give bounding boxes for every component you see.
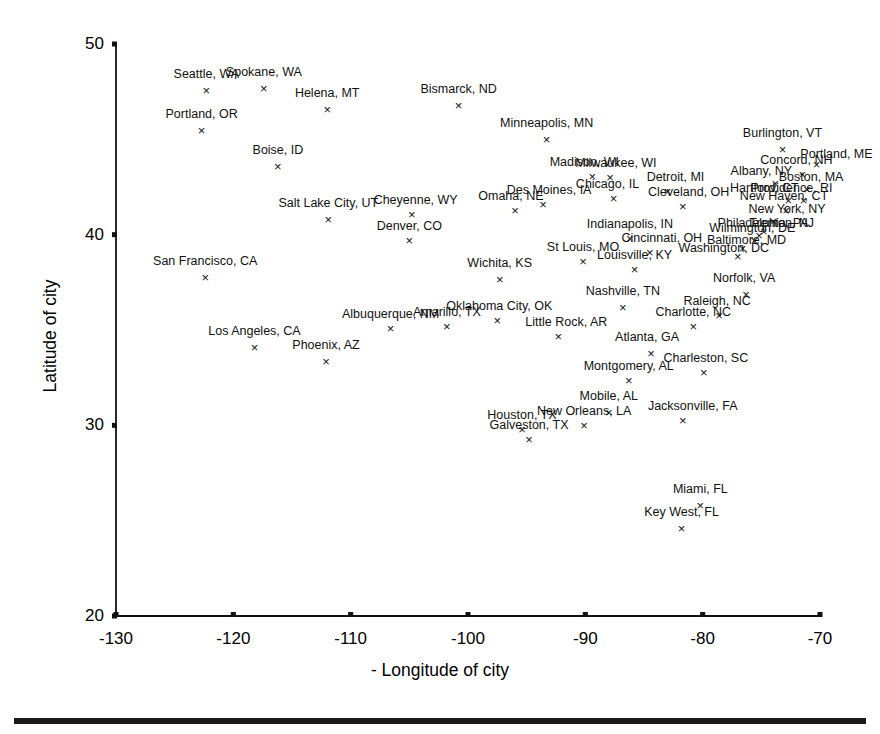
point-marker: ×	[689, 320, 697, 333]
point-label: Denver, CO	[377, 220, 442, 233]
point-marker: ×	[579, 255, 587, 268]
point-label: Burlington, VT	[743, 127, 822, 140]
point-marker: ×	[443, 320, 451, 333]
point-marker: ×	[260, 81, 268, 94]
point-label: Cleveland, OH	[648, 186, 729, 199]
point-label: Albuquerque, NM	[342, 308, 439, 321]
x-tick-label: -80	[663, 630, 743, 647]
point-marker: ×	[525, 432, 533, 445]
point-marker: ×	[679, 413, 687, 426]
point-marker: ×	[323, 102, 331, 115]
point-label: Boise, ID	[253, 144, 304, 157]
x-tick-label: -130	[76, 630, 156, 647]
point-label: Providence, RI	[751, 182, 833, 195]
point-label: Wichita, KS	[467, 257, 532, 270]
bottom-divider-rule	[14, 718, 866, 724]
point-marker: ×	[543, 133, 551, 146]
point-marker: ×	[274, 160, 282, 173]
point-label: Mobile, AL	[580, 390, 638, 403]
point-label: Chicago, IL	[576, 178, 639, 191]
point-label: Cincinnati, OH	[622, 232, 703, 245]
point-label: Milwaukee, WI	[575, 157, 656, 170]
x-tick-label: -110	[311, 630, 391, 647]
point-label: Minneapolis, MN	[500, 117, 593, 130]
point-marker: ×	[734, 249, 742, 262]
point-marker: ×	[580, 419, 588, 432]
point-marker: ×	[455, 99, 463, 112]
point-marker: ×	[408, 207, 416, 220]
x-tick-label: -90	[545, 630, 625, 647]
point-marker: ×	[678, 522, 686, 535]
point-marker: ×	[406, 234, 414, 247]
point-marker: ×	[631, 262, 639, 275]
point-label: Helena, MT	[295, 87, 360, 100]
point-marker: ×	[679, 200, 687, 213]
screenshot-page: 20304050 -130-120-110-100-90-80-70 Seatt…	[0, 0, 880, 734]
point-label: Cheyenne, WY	[374, 194, 458, 207]
x-axis-title: - Longitude of city	[0, 660, 880, 681]
point-marker: ×	[203, 83, 211, 96]
point-marker: ×	[610, 192, 618, 205]
point-label: Atlanta, GA	[615, 331, 679, 344]
scatter-chart-figure: 20304050 -130-120-110-100-90-80-70 Seatt…	[0, 0, 880, 700]
point-marker: ×	[201, 270, 209, 283]
point-label: Galveston, TX	[490, 419, 569, 432]
point-marker: ×	[496, 272, 504, 285]
point-marker: ×	[700, 365, 708, 378]
point-marker: ×	[511, 203, 519, 216]
point-label: Jacksonville, FA	[648, 400, 738, 413]
point-label: Phoenix, AZ	[292, 339, 359, 352]
y-axis-title: Latitude of city	[40, 186, 61, 486]
x-tick-label: -100	[428, 630, 508, 647]
point-label: San Francisco, CA	[153, 255, 257, 268]
x-tick-label: -120	[193, 630, 273, 647]
y-tick-label: 50	[48, 35, 104, 52]
point-marker: ×	[387, 322, 395, 335]
point-label: Bismarck, ND	[420, 83, 496, 96]
point-marker: ×	[251, 341, 259, 354]
point-marker: ×	[322, 354, 330, 367]
point-label: Key West, FL	[644, 506, 719, 519]
point-marker: ×	[625, 373, 633, 386]
point-marker: ×	[647, 346, 655, 359]
y-tick-label: 20	[48, 607, 104, 624]
point-marker: ×	[198, 123, 206, 136]
point-marker: ×	[555, 329, 563, 342]
point-marker: ×	[325, 213, 333, 226]
point-label: Louisville, KY	[597, 249, 672, 262]
point-label: Miami, FL	[673, 483, 728, 496]
point-label: Norfolk, VA	[713, 272, 775, 285]
point-label: Spokane, WA	[226, 66, 302, 79]
point-marker: ×	[494, 314, 502, 327]
point-label: Montgomery, AL	[584, 360, 674, 373]
point-marker: ×	[539, 198, 547, 211]
point-marker: ×	[619, 301, 627, 314]
point-label: Los Angeles, CA	[208, 325, 300, 338]
point-label: Charleston, SC	[663, 352, 748, 365]
point-label: Nashville, TN	[586, 285, 660, 298]
point-label: Little Rock, AR	[525, 316, 607, 329]
point-label: Salt Lake City, UT	[278, 197, 378, 210]
point-label: New York, NY	[749, 203, 826, 216]
x-tick-label: -70	[780, 630, 860, 647]
point-label: Detroit, MI	[647, 171, 705, 184]
point-label: Portland, OR	[166, 108, 238, 121]
point-label: Indianapolis, IN	[587, 218, 673, 231]
point-label: Charlotte, NC	[655, 306, 731, 319]
